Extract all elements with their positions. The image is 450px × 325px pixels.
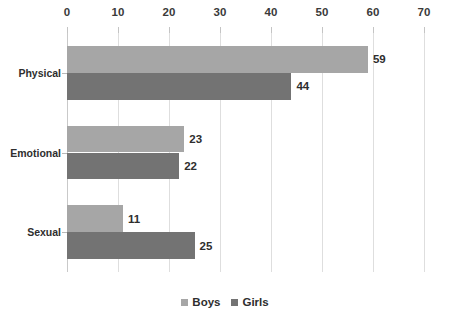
x-axis-tick-label: 10 [111, 6, 124, 18]
y-axis-tick-mark [62, 232, 67, 233]
x-axis-tick-mark [322, 27, 323, 33]
gridline-vertical [373, 33, 374, 272]
legend-swatch-icon [181, 299, 188, 306]
legend-label: Boys [192, 296, 220, 308]
legend-item-girls[interactable]: Girls [231, 296, 268, 308]
y-axis-category-labels: PhysicalEmotionalSexual [0, 33, 61, 272]
bar-value-label: 59 [373, 53, 386, 65]
x-axis-tick-mark [169, 27, 170, 33]
bar-value-label: 22 [184, 160, 197, 172]
x-axis-tick-mark [220, 27, 221, 33]
legend-swatch-icon [231, 299, 238, 306]
chart-legend: BoysGirls [0, 296, 450, 308]
bar-girls-sexual [67, 232, 195, 259]
category-label-sexual: Sexual [27, 226, 61, 238]
x-axis-tick-label: 20 [162, 6, 175, 18]
plot-area: 594423221125 [67, 33, 424, 272]
x-axis-tick-label: 60 [366, 6, 379, 18]
bar-boys-emotional [67, 126, 184, 153]
bar-value-label: 25 [200, 240, 213, 252]
bar-chart: 010203040506070 PhysicalEmotionalSexual … [0, 0, 450, 325]
x-axis-tick-label: 50 [315, 6, 328, 18]
bar-value-label: 11 [128, 213, 140, 225]
legend-label: Girls [242, 296, 268, 308]
bar-value-label: 23 [189, 133, 202, 145]
gridline-vertical [424, 33, 425, 272]
bar-girls-emotional [67, 153, 179, 180]
bar-girls-physical [67, 73, 291, 100]
x-axis-tick-label: 30 [213, 6, 226, 18]
category-label-physical: Physical [18, 67, 61, 79]
y-axis-tick-mark [62, 73, 67, 74]
x-axis-tick-label: 0 [64, 6, 71, 18]
x-axis-tick-mark [373, 27, 374, 33]
category-label-emotional: Emotional [10, 147, 61, 159]
x-axis-tick-mark [271, 27, 272, 33]
bar-boys-physical [67, 46, 368, 73]
legend-item-boys[interactable]: Boys [181, 296, 220, 308]
x-axis-tick-label: 40 [264, 6, 277, 18]
x-axis-tick-label: 70 [417, 6, 430, 18]
x-axis-tick-mark [118, 27, 119, 33]
x-axis-tick-mark [67, 27, 68, 33]
bar-boys-sexual [67, 205, 123, 232]
x-axis-tick-mark [424, 27, 425, 33]
y-axis-tick-mark [62, 153, 67, 154]
bar-value-label: 44 [296, 80, 309, 92]
